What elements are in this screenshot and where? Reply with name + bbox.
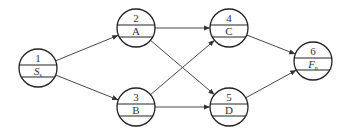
edge-4-to-6 — [247, 35, 295, 54]
node-number: 5 — [226, 91, 232, 103]
network-diagram: 1Ss2A3B4C5D6Fn — [0, 0, 348, 132]
node-3: 3B — [117, 88, 155, 126]
node-number: 3 — [133, 91, 139, 103]
node-label: C — [225, 25, 232, 37]
node-number: 6 — [310, 45, 316, 57]
node-number: 2 — [133, 12, 139, 24]
edge-1-to-2 — [56, 35, 118, 60]
node-label: A — [132, 25, 140, 37]
node-number: 4 — [226, 12, 232, 24]
node-label: B — [132, 104, 139, 116]
edge-5-to-6 — [246, 70, 296, 98]
node-6: 6Fn — [294, 42, 332, 80]
edges-layer — [56, 28, 296, 107]
node-number: 1 — [35, 52, 41, 64]
node-label: D — [225, 104, 233, 116]
edge-1-to-3 — [56, 75, 118, 100]
node-5: 5D — [210, 88, 248, 126]
node-2: 2A — [117, 9, 155, 47]
nodes-layer: 1Ss2A3B4C5D6Fn — [19, 9, 332, 126]
node-4: 4C — [210, 9, 248, 47]
node-1: 1Ss — [19, 49, 57, 87]
